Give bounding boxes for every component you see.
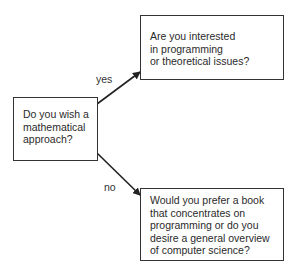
start-line-3: approach? bbox=[23, 133, 89, 146]
yes-edge-label: yes bbox=[96, 73, 112, 85]
yes-line-1: Are you interested bbox=[150, 30, 249, 43]
yes-outcome-box: Are you interested in programming or the… bbox=[140, 15, 284, 80]
no-outcome-box: Would you prefer a book that concentrate… bbox=[140, 188, 284, 261]
no-line-2: that concentrates on bbox=[150, 207, 270, 220]
no-line-1: Would you prefer a book bbox=[150, 194, 270, 207]
yes-line-2: in programming bbox=[150, 43, 249, 56]
no-line-5: of computer science? bbox=[150, 244, 270, 257]
start-decision-box: Do you wish a mathematical approach? bbox=[13, 97, 98, 161]
yes-line-3: or theoretical issues? bbox=[150, 55, 249, 68]
no-line-3: programming or do you bbox=[150, 219, 270, 232]
start-line-1: Do you wish a bbox=[23, 108, 89, 121]
no-line-4: desire a general overview bbox=[150, 232, 270, 245]
start-line-2: mathematical bbox=[23, 121, 89, 134]
no-edge-label: no bbox=[104, 181, 116, 193]
